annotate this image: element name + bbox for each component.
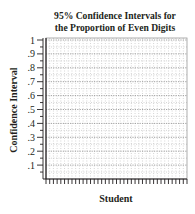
- y-tick-label: .9: [28, 48, 36, 59]
- y-tick-label: .2: [28, 146, 36, 157]
- y-tick-label: .3: [28, 132, 36, 143]
- y-tick-label: .5: [28, 104, 36, 115]
- y-tick-label: 1: [30, 35, 35, 46]
- plot-area: .1.2.3.4.5.6.7.8.91: [0, 0, 195, 214]
- y-tick-label: .7: [28, 76, 36, 87]
- y-tick-label: .1: [28, 160, 36, 171]
- y-tick-label: .4: [28, 118, 36, 129]
- y-tick-label: .6: [28, 90, 36, 101]
- y-tick-label: .8: [28, 62, 36, 73]
